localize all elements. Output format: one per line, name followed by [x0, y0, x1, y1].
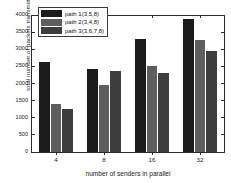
y-tick-mark-right: [221, 152, 224, 153]
plot-right-spine: [224, 15, 225, 153]
x-tick-mark: [152, 152, 153, 155]
x-tick-mark-top: [200, 15, 201, 18]
y-tick-mark-right: [221, 66, 224, 67]
legend-color-swatch: [41, 10, 62, 17]
bar: [110, 71, 121, 152]
y-tick-label: 4000: [16, 11, 28, 17]
y-tick-label: 1500: [16, 97, 28, 103]
bar: [135, 39, 146, 152]
legend-label: path 2(3,4,8): [65, 18, 99, 26]
y-tick-label: 0: [25, 148, 28, 154]
x-tick-label: 8: [92, 156, 116, 163]
y-tick-mark: [32, 152, 35, 153]
legend-label: path 1(3,5,8): [65, 10, 99, 18]
bar: [183, 19, 194, 152]
y-tick-mark: [32, 32, 35, 33]
chart-legend: path 1(3,5,8)path 2(3,4,8)path 3(3,6,7,8…: [38, 7, 108, 37]
y-tick-mark-right: [221, 134, 224, 135]
bar: [51, 104, 62, 152]
bar: [87, 69, 98, 152]
y-tick-mark: [32, 15, 35, 16]
y-tick-label: 2500: [16, 62, 28, 68]
y-tick-mark-right: [221, 117, 224, 118]
y-tick-label: 3500: [16, 28, 28, 34]
bar-chart-figure: total number of packets transmitted 0500…: [0, 0, 231, 183]
y-tick-mark-right: [221, 49, 224, 50]
y-tick-mark: [32, 117, 35, 118]
y-tick-mark: [32, 134, 35, 135]
legend-label: path 3(3,6,7,8): [65, 27, 104, 35]
bar: [195, 40, 206, 152]
x-tick-label: 32: [188, 156, 212, 163]
x-tick-mark: [200, 152, 201, 155]
x-tick-label: 4: [44, 156, 68, 163]
bar: [62, 109, 73, 152]
bar: [206, 51, 217, 152]
y-tick-label: 3000: [16, 45, 28, 51]
y-tick-mark-right: [221, 32, 224, 33]
x-axis-label: number of senders in parallel: [30, 170, 226, 177]
bar: [158, 73, 169, 152]
bar: [147, 66, 158, 152]
y-tick-mark: [32, 83, 35, 84]
bar: [99, 85, 110, 152]
bar: [39, 62, 50, 152]
legend-item: path 3(3,6,7,8): [41, 27, 104, 35]
x-tick-mark: [56, 152, 57, 155]
x-tick-mark: [104, 152, 105, 155]
y-tick-mark: [32, 49, 35, 50]
y-tick-mark-right: [221, 15, 224, 16]
legend-item: path 1(3,5,8): [41, 10, 104, 18]
x-tick-mark-top: [152, 15, 153, 18]
legend-color-swatch: [41, 27, 62, 34]
y-tick-mark: [32, 100, 35, 101]
legend-item: path 2(3,4,8): [41, 18, 104, 26]
y-tick-label: 2000: [16, 80, 28, 86]
y-tick-label: 1000: [16, 114, 28, 120]
y-tick-mark: [32, 66, 35, 67]
legend-color-swatch: [41, 19, 62, 26]
y-tick-mark-right: [221, 100, 224, 101]
y-tick-mark-right: [221, 83, 224, 84]
x-tick-label: 16: [140, 156, 164, 163]
y-tick-label: 500: [19, 131, 28, 137]
